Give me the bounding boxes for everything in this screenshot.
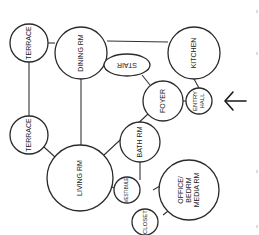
node-kitchen: KITCHEN (168, 27, 220, 79)
edge-dining-kitchen (107, 41, 168, 42)
entrance-arrow-icon (225, 92, 246, 110)
node-stair-label: STAIR (117, 62, 137, 69)
node-vestibule-label: VESTIBULE (123, 177, 129, 202)
node-office-line3: MEDIA RM (193, 173, 200, 208)
node-living-rm: LIVING RM (47, 145, 113, 211)
node-closet: CLOSET (132, 209, 158, 235)
node-office-line1: OFFICE/ (177, 176, 184, 204)
node-terrace-top: TERRACE (10, 24, 48, 62)
node-terrace-bottom-label: TERRACE (25, 118, 32, 152)
node-dining-rm-label: DINING RM (77, 34, 84, 72)
node-entry-hall: ENTRY HALL (186, 88, 212, 114)
node-terrace-bottom: TERRACE (10, 116, 48, 154)
node-bath-rm-label: BATH RM (136, 126, 143, 157)
node-office-bedrm-media: OFFICE/ BEDRM MEDIA RM (159, 160, 219, 220)
edge-terrace-living (44, 147, 55, 157)
node-kitchen-label: KITCHEN (190, 38, 197, 69)
edge-stair-foyer (142, 75, 150, 85)
node-terrace-top-label: TERRACE (25, 26, 32, 60)
node-entry-hall-line2: HALL (199, 93, 205, 109)
node-foyer-label: FOYER (159, 89, 166, 113)
node-bath-rm: BATH RM (120, 122, 160, 162)
node-dining-rm: DINING RM (55, 27, 107, 79)
node-vestibule: VESTIBULE (114, 177, 140, 203)
node-stair: STAIR (104, 54, 150, 76)
node-closet-label: CLOSET (142, 210, 148, 234)
node-foyer: FOYER (143, 81, 183, 121)
bubble-diagram: TERRACE DINING RM KITCHEN STAIR FOYER EN… (0, 0, 259, 235)
node-entry-hall-line1: ENTRY (192, 91, 198, 111)
edge-kitchen-entry (194, 79, 199, 88)
node-living-rm-label: LIVING RM (76, 160, 83, 196)
node-office-line2: BEDRM (185, 177, 192, 202)
